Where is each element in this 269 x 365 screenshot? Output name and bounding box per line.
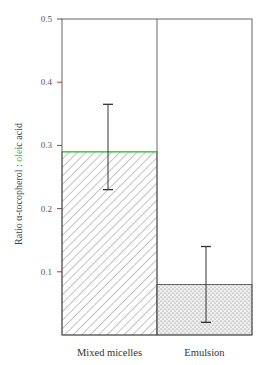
y-tick-label: 0.2 <box>41 204 52 214</box>
bar-emulsion <box>157 284 252 335</box>
bar-mixed-micelles <box>62 152 157 335</box>
y-axis-title: Ratio α-tocopherol : oleic acid <box>13 123 24 245</box>
x-category-label: Emulsion <box>184 347 225 358</box>
y-tick-label: 0.5 <box>41 14 53 24</box>
y-tick-label: 0.4 <box>41 77 53 87</box>
bar-chart: 0.10.20.30.40.5 Mixed micellesEmulsion R… <box>0 0 269 365</box>
x-axis-labels: Mixed micellesEmulsion <box>77 347 225 358</box>
y-axis: 0.10.20.30.40.5 <box>41 14 62 277</box>
y-tick-label: 0.3 <box>41 140 53 150</box>
y-tick-label: 0.1 <box>41 267 52 277</box>
x-category-label: Mixed micelles <box>77 347 142 358</box>
